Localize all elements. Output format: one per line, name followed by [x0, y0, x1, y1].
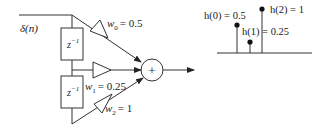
stem-dot-1: [247, 39, 252, 44]
weight-label-0: w0= 0.5: [107, 17, 143, 32]
input-label: δ(n): [20, 22, 38, 35]
fir-filter-diagram: δ(n) z−1 z−1 w0= 0.5 w1= 0.25 w2= 1 +: [0, 0, 328, 135]
gain-triangle-1: [93, 62, 111, 78]
h0-label: h(0) = 0.5: [204, 10, 246, 22]
h1-label: h(1) = 0.25: [242, 26, 289, 38]
h2-label: h(2) = 1: [270, 4, 304, 16]
gain-triangle-0: [90, 20, 108, 38]
summing-junction: +: [141, 59, 163, 81]
weight-label-2: w2= 1: [105, 102, 132, 117]
impulse-response-plot: h(0) = 0.5 h(1) = 0.25 h(2) = 1: [204, 4, 312, 53]
plus-icon: +: [148, 63, 155, 78]
stem-dot-2: [259, 6, 264, 11]
stem-dot-0: [234, 22, 239, 27]
